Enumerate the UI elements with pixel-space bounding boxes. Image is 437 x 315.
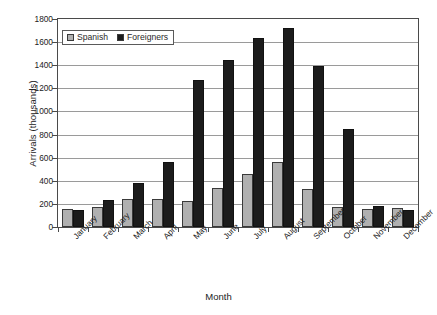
y-tick-mark [52,65,57,66]
bar-foreigners [313,66,324,227]
y-tick-label: 600 [19,154,53,162]
y-tick-mark [52,181,57,182]
bar-spanish [242,174,253,227]
x-axis-title: Month [0,291,437,302]
bar-group [238,19,268,227]
bar-foreigners [193,80,204,227]
bar-foreigners [133,183,144,227]
x-tick-mark [298,228,299,232]
y-tick-label: 400 [19,177,53,185]
legend-item-spanish: Spanish [67,33,108,42]
x-tick-mark [268,228,269,232]
y-tick-mark [52,42,57,43]
bar-foreigners [253,38,264,228]
bar-chart: Arrivals (thousands) 0200400600800100012… [0,0,437,315]
x-tick-mark [118,228,119,232]
bar-group [328,19,358,227]
bar-group [178,19,208,227]
bar-group [58,19,88,227]
bar-group [298,19,328,227]
y-tick-mark [52,227,57,228]
bars-layer [58,19,418,227]
bar-spanish [152,199,163,227]
y-tick-label: 1600 [19,38,53,46]
y-tick-label: 1400 [19,61,53,69]
y-tick-mark [52,158,57,159]
legend-swatch-spanish-icon [67,34,74,41]
y-tick-mark [52,88,57,89]
x-tick-mark [388,228,389,232]
y-tick-label: 0 [19,223,53,231]
chart-legend: Spanish Foreigners [62,30,174,45]
y-tick-label: 800 [19,131,53,139]
bar-group [208,19,238,227]
y-tick-label: 1000 [19,107,53,115]
x-tick-mark [58,228,59,232]
bar-foreigners [283,28,294,227]
bar-foreigners [223,60,234,227]
bar-spanish [212,188,223,227]
y-tick-label: 1200 [19,84,53,92]
bar-group [388,19,418,227]
x-tick-mark [88,228,89,232]
x-tick-mark [328,228,329,232]
bar-spanish [182,201,193,227]
x-tick-mark [358,228,359,232]
bar-group [358,19,388,227]
y-tick-mark [52,111,57,112]
y-tick-mark [52,204,57,205]
y-tick-label: 200 [19,200,53,208]
x-tick-mark [208,228,209,232]
x-tick-mark [238,228,239,232]
y-tick-mark [52,135,57,136]
legend-label-foreigners: Foreigners [127,33,168,42]
bar-spanish [62,209,73,227]
legend-label-spanish: Spanish [77,33,108,42]
x-tick-mark [148,228,149,232]
bar-group [148,19,178,227]
bar-foreigners [163,162,174,227]
bar-group [268,19,298,227]
bar-group [118,19,148,227]
x-tick-mark [178,228,179,232]
x-tick-mark [418,228,419,232]
legend-item-foreigners: Foreigners [117,33,168,42]
bar-spanish [272,162,283,227]
y-tick-label: 1800 [19,15,53,23]
bar-group [88,19,118,227]
legend-swatch-foreigners-icon [117,34,124,41]
y-tick-mark [52,19,57,20]
